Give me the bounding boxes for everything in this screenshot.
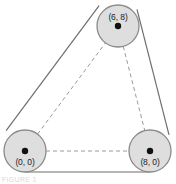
figure-container: (6, 8) (0, 0) (8, 0) FIGURE 1	[0, 0, 176, 184]
center-link-lines-group	[25, 26, 150, 151]
pulley-top: (6, 8)	[97, 5, 139, 47]
pulley-bottom-right-label: (8, 0)	[140, 157, 160, 167]
figure-caption-strip: FIGURE 1	[0, 176, 176, 184]
center-link-left-to-top	[25, 26, 118, 151]
pulley-bottom-left-center-dot	[22, 148, 28, 154]
pulley-bottom-left-label: (0, 0)	[15, 157, 35, 167]
pulley-belt-diagram: (6, 8) (0, 0) (8, 0)	[0, 0, 176, 184]
pulley-top-center-dot	[115, 23, 121, 29]
figure-caption: FIGURE 1	[0, 176, 176, 184]
pulley-bottom-right-center-dot	[147, 148, 153, 154]
belt-segment-right	[137, 9, 169, 135]
pulley-top-label: (6, 8)	[108, 12, 128, 22]
pulley-bottom-right: (8, 0)	[129, 130, 171, 172]
belt-segment-left	[6, 6, 99, 131]
pulley-bottom-left: (0, 0)	[4, 130, 46, 172]
